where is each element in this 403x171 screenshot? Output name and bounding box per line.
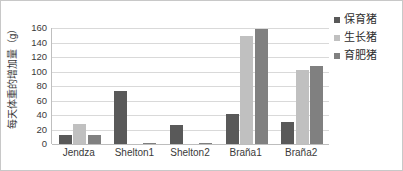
axis-baseline <box>52 144 329 145</box>
legend: 保育猪生长猪育肥猪 <box>334 11 396 65</box>
bars-layer <box>52 28 329 144</box>
bar-group <box>108 28 164 144</box>
y-axis-title: 每天体重的增加量（g） <box>3 1 21 151</box>
legend-item[interactable]: 保育猪 <box>334 11 396 28</box>
legend-swatch-icon <box>334 17 340 23</box>
bar-chart: 每天体重的增加量（g） 020406080100120140160 Jendza… <box>0 0 403 171</box>
y-axis-title-text: 每天体重的增加量（g） <box>5 23 20 129</box>
bar-group <box>52 28 108 144</box>
y-axis-tick-label: 60 <box>36 96 47 106</box>
legend-label: 生长猪 <box>344 32 377 43</box>
bar <box>114 91 127 144</box>
bar <box>255 29 268 144</box>
bar <box>73 124 86 144</box>
bar <box>59 135 72 144</box>
bar-group <box>163 28 219 144</box>
plot-area <box>51 28 329 144</box>
y-axis-tick-labels: 020406080100120140160 <box>21 28 47 144</box>
y-axis-tick-label: 140 <box>31 38 47 48</box>
y-axis-tick-label: 120 <box>31 52 47 62</box>
y-axis-tick-label: 0 <box>42 139 47 149</box>
bar-group <box>219 28 275 144</box>
bar <box>88 135 101 144</box>
legend-swatch-icon <box>334 35 340 41</box>
x-axis-tick-label: Shelton1 <box>115 147 154 158</box>
bar <box>310 66 323 144</box>
x-axis-tick-label: Jendza <box>63 147 95 158</box>
bar <box>170 125 183 144</box>
bar <box>143 143 156 144</box>
bar <box>296 70 309 144</box>
y-axis-tick-label: 100 <box>31 67 47 77</box>
bar <box>240 36 253 144</box>
x-axis-tick-label: Braña2 <box>285 147 317 158</box>
y-axis-tick-label: 80 <box>36 81 47 91</box>
bar <box>226 114 239 144</box>
y-axis-tick-label: 40 <box>36 110 47 120</box>
x-axis-tick-labels: JendzaShelton1Shelton2Braña1Braña2 <box>51 147 329 165</box>
x-axis-tick-label: Braña1 <box>229 147 261 158</box>
legend-label: 保育猪 <box>344 14 377 25</box>
legend-label: 育肥猪 <box>344 50 377 61</box>
bar-group <box>274 28 330 144</box>
legend-swatch-icon <box>334 53 340 59</box>
y-axis-tick-label: 160 <box>31 23 47 33</box>
y-axis-tick-label: 20 <box>36 125 47 135</box>
x-axis-tick-label: Shelton2 <box>170 147 209 158</box>
legend-item[interactable]: 生长猪 <box>334 29 396 46</box>
bar <box>199 143 212 144</box>
bar <box>281 122 294 144</box>
legend-item[interactable]: 育肥猪 <box>334 47 396 64</box>
